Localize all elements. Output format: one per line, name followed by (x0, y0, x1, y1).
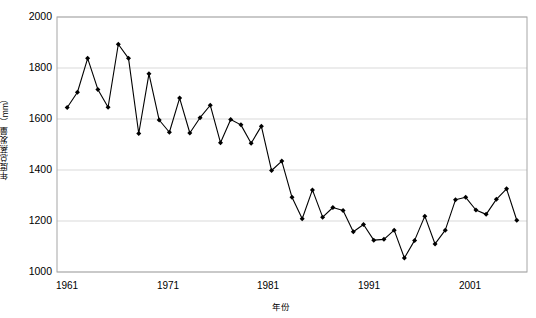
data-point-marker (402, 255, 407, 260)
evaporation-line-chart: 年度总蒸发量（mm） 年份 2000 1800 1600 1400 1200 1… (0, 0, 536, 318)
gridlines (57, 17, 527, 272)
data-point-marker (249, 141, 254, 146)
plot-area (0, 0, 536, 318)
data-point-marker (146, 71, 151, 76)
data-point-marker (300, 216, 305, 221)
data-point-marker (136, 131, 141, 136)
data-point-marker (85, 56, 90, 61)
data-point-marker (422, 214, 427, 219)
plot-frame (57, 17, 527, 272)
data-point-marker (514, 218, 519, 223)
data-point-marker (228, 117, 233, 122)
data-point-marker (453, 197, 458, 202)
data-markers (65, 42, 520, 261)
data-point-marker (341, 208, 346, 213)
data-point-marker (106, 105, 111, 110)
data-point-marker (238, 122, 243, 127)
data-point-marker (218, 140, 223, 145)
data-line-series (67, 44, 517, 258)
data-point-marker (290, 195, 295, 200)
data-point-marker (310, 187, 315, 192)
data-point-marker (177, 96, 182, 101)
data-point-marker (95, 87, 100, 92)
data-point-marker (259, 124, 264, 129)
data-point-marker (412, 238, 417, 243)
